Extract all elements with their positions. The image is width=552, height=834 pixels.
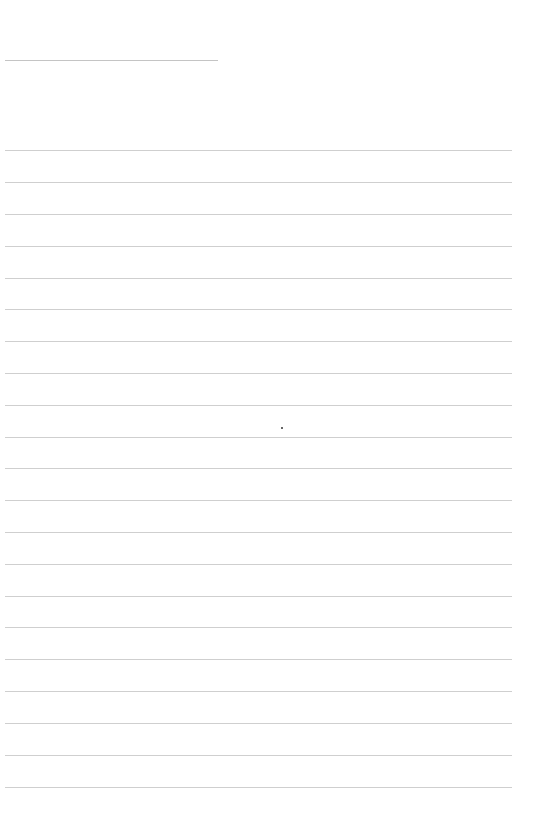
ruled-line-15: [5, 596, 512, 597]
ruled-line-21: [5, 787, 512, 788]
ruled-line-16: [5, 627, 512, 628]
ruled-line-10: [5, 437, 512, 438]
faint-header-text-right: [262, 0, 332, 6]
ink-speck: [281, 427, 283, 429]
ruled-line-1: [5, 150, 512, 151]
ruled-line-11: [5, 468, 512, 469]
ruled-line-8: [5, 373, 512, 374]
ruled-line-12: [5, 500, 512, 501]
ruled-line-20: [5, 755, 512, 756]
ruled-line-17: [5, 659, 512, 660]
faint-header-text-left: [150, 0, 210, 6]
ruled-line-3: [5, 214, 512, 215]
ruled-line-4: [5, 246, 512, 247]
ruled-line-5: [5, 278, 512, 279]
ruled-line-7: [5, 341, 512, 342]
ruled-line-18: [5, 691, 512, 692]
ruled-line-14: [5, 564, 512, 565]
title-line: [5, 60, 218, 61]
ruled-line-9: [5, 405, 512, 406]
ruled-line-19: [5, 723, 512, 724]
ruled-line-2: [5, 182, 512, 183]
ruled-line-6: [5, 309, 512, 310]
ruled-line-13: [5, 532, 512, 533]
